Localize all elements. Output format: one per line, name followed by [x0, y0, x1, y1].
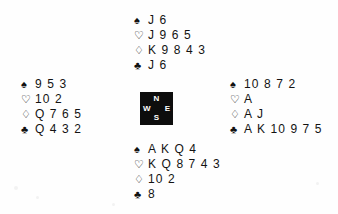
hand-east-hearts: A — [244, 92, 253, 107]
spade-icon: ♠ — [21, 77, 35, 92]
spade-icon: ♠ — [230, 77, 244, 92]
hand-east-spades-row: ♠ 10 8 7 2 — [230, 77, 323, 92]
heart-icon: ♡ — [134, 28, 148, 43]
hand-south-diamonds-row: ♢ 10 2 — [134, 172, 221, 187]
hand-west-hearts-row: ♡ 10 2 — [21, 92, 82, 107]
hand-south: ♠ A K Q 4 ♡ K Q 8 7 4 3 ♢ 10 2 ♣ 8 — [134, 142, 221, 202]
scan-speckle — [14, 186, 18, 190]
scan-speckle — [316, 182, 319, 185]
hand-north-spades: J 6 — [148, 13, 167, 28]
club-icon: ♣ — [134, 187, 148, 202]
diamond-icon: ♢ — [134, 172, 148, 187]
hand-south-diamonds: 10 2 — [148, 172, 176, 187]
hand-south-hearts-row: ♡ K Q 8 7 4 3 — [134, 157, 221, 172]
hand-west-clubs-row: ♣ Q 4 3 2 — [21, 122, 82, 137]
hand-east-clubs-row: ♣ A K 10 9 7 5 — [230, 122, 323, 137]
hand-north-hearts-row: ♡ J 9 6 5 — [134, 28, 206, 43]
hand-north-diamonds-row: ♢ K 9 8 4 3 — [134, 43, 206, 58]
diamond-icon: ♢ — [134, 43, 148, 58]
diamond-icon: ♢ — [230, 107, 244, 122]
scan-speckle — [36, 196, 39, 199]
hand-south-spades: A K Q 4 — [148, 142, 197, 157]
hand-east-diamonds: A J — [244, 107, 264, 122]
compass-north-label: N — [154, 95, 160, 103]
hand-south-clubs-row: ♣ 8 — [134, 187, 221, 202]
spade-icon: ♠ — [134, 142, 148, 157]
hand-north-spades-row: ♠ J 6 — [134, 13, 206, 28]
compass-east-label: E — [165, 105, 170, 113]
hand-west-spades-row: ♠ 9 5 3 — [21, 77, 82, 92]
heart-icon: ♡ — [21, 92, 35, 107]
hand-east-diamonds-row: ♢ A J — [230, 107, 323, 122]
hand-east: ♠ 10 8 7 2 ♡ A ♢ A J ♣ A K 10 9 7 5 — [230, 77, 323, 137]
hand-east-hearts-row: ♡ A — [230, 92, 323, 107]
diamond-icon: ♢ — [21, 107, 35, 122]
hand-south-clubs: 8 — [148, 187, 156, 202]
club-icon: ♣ — [134, 58, 148, 73]
compass-south-label: S — [154, 114, 159, 122]
club-icon: ♣ — [230, 122, 244, 137]
hand-north-hearts: J 9 6 5 — [148, 28, 192, 43]
scan-speckle — [112, 203, 115, 206]
compass-box: N W E S — [140, 92, 173, 125]
hand-north-diamonds: K 9 8 4 3 — [148, 43, 206, 58]
hand-west-hearts: 10 2 — [35, 92, 63, 107]
hand-south-spades-row: ♠ A K Q 4 — [134, 142, 221, 157]
hand-west: ♠ 9 5 3 ♡ 10 2 ♢ Q 7 6 5 ♣ Q 4 3 2 — [21, 77, 82, 137]
hand-south-hearts: K Q 8 7 4 3 — [148, 157, 221, 172]
hand-east-spades: 10 8 7 2 — [244, 77, 296, 92]
hand-west-spades: 9 5 3 — [35, 77, 67, 92]
hand-west-diamonds: Q 7 6 5 — [35, 107, 82, 122]
hand-north: ♠ J 6 ♡ J 9 6 5 ♢ K 9 8 4 3 ♣ J 6 — [134, 13, 206, 73]
heart-icon: ♡ — [134, 157, 148, 172]
hand-east-clubs: A K 10 9 7 5 — [244, 122, 323, 137]
bridge-hand-diagram: ♠ J 6 ♡ J 9 6 5 ♢ K 9 8 4 3 ♣ J 6 ♠ 9 5 … — [0, 0, 338, 214]
compass-west-label: W — [143, 105, 151, 113]
hand-west-clubs: Q 4 3 2 — [35, 122, 82, 137]
spade-icon: ♠ — [134, 13, 148, 28]
hand-north-clubs: J 6 — [148, 58, 167, 73]
hand-west-diamonds-row: ♢ Q 7 6 5 — [21, 107, 82, 122]
club-icon: ♣ — [21, 122, 35, 137]
hand-north-clubs-row: ♣ J 6 — [134, 58, 206, 73]
heart-icon: ♡ — [230, 92, 244, 107]
